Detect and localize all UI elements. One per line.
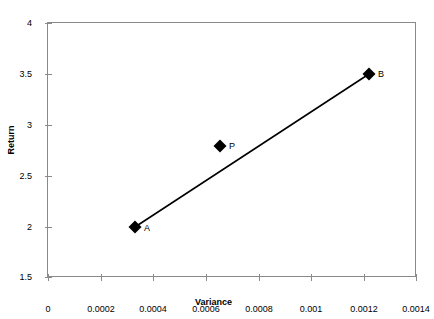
plot-area: 4 3.5 3 2.5 2 1.5 0 0.0002 0.0004 0.0006… [47, 22, 416, 277]
y-tick-label: 1.5 [0, 273, 32, 282]
x-tick-label: 0.0012 [334, 305, 394, 314]
y-tick-label: 3 [0, 121, 32, 130]
y-axis-title: Return [6, 105, 16, 175]
data-point-label-p: P [229, 142, 235, 151]
y-tick-label: 3.5 [0, 70, 32, 79]
data-point-marker-b[interactable] [363, 68, 376, 81]
frontier-line [135, 74, 369, 227]
x-tick-label: 0.0008 [229, 305, 289, 314]
x-tick-label: 0.0002 [71, 305, 131, 314]
x-tick-label: 0.0006 [176, 305, 236, 314]
data-point-marker-a[interactable] [129, 221, 142, 234]
y-tick-label: 2.5 [0, 172, 32, 181]
x-tick-label: 0.0004 [123, 305, 183, 314]
x-tick-label: 0.0014 [386, 305, 434, 314]
data-point-label-a: A [144, 224, 150, 233]
y-tick-label: 4 [0, 19, 32, 28]
x-tick-label: 0.001 [281, 305, 341, 314]
data-point-label-b: B [378, 70, 384, 79]
data-point-marker-p[interactable] [214, 140, 227, 153]
chart-title: Variance and Return [0, 0, 427, 2]
x-tick-label: 0 [18, 305, 78, 314]
y-tick-label: 2 [0, 223, 32, 232]
